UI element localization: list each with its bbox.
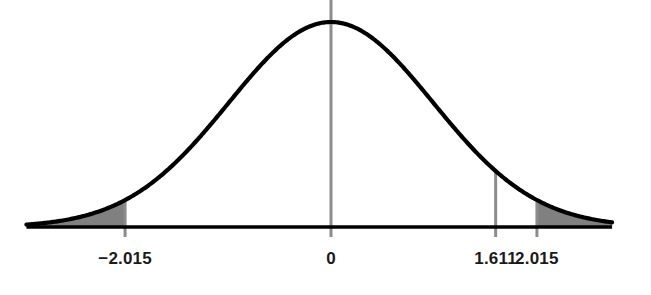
bell-curve [26,22,612,225]
tick-label-right-critical: 2.015 [515,250,559,267]
tick-label-left-critical: −2.015 [98,250,152,267]
normal-distribution-figure: −2.015 0 1.611 2.015 [0,0,651,295]
marker-lines [125,0,537,237]
tick-label-test-statistic: 1.611 [474,250,517,267]
tick-label-center: 0 [326,250,336,267]
